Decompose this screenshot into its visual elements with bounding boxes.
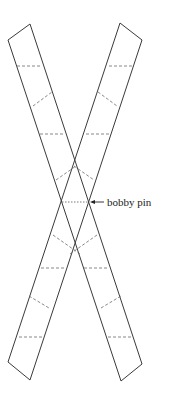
crossed-strips-diagram: bobby pin	[0, 0, 170, 404]
bobby-pin-label: bobby pin	[107, 196, 152, 208]
arrow-icon	[90, 200, 104, 204]
